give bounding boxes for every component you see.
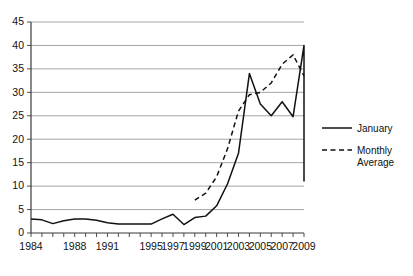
x-axis-tick-label: 2003 <box>227 240 251 252</box>
y-axis-tick-label: 20 <box>12 133 24 145</box>
y-axis-tick-label: 25 <box>12 109 24 121</box>
x-axis-tick-label: 2009 <box>292 240 316 252</box>
line-chart: 051015202530354045 198419881991199519971… <box>0 0 413 276</box>
y-axis-tick-label: 0 <box>18 226 24 238</box>
x-axis-tick-label: 1988 <box>63 240 87 252</box>
x-axis-tick-label: 1999 <box>183 240 207 252</box>
y-axis-tick-label: 45 <box>12 15 24 27</box>
y-axis-tick-label: 40 <box>12 39 24 51</box>
x-axis-tick-label: 1991 <box>96 240 120 252</box>
y-axis-tick-label: 15 <box>12 156 24 168</box>
chart-container: 051015202530354045 198419881991199519971… <box>0 0 413 276</box>
legend-label-january: January <box>357 123 393 134</box>
y-axis-tick-label: 10 <box>12 179 24 191</box>
chart-background <box>0 0 413 276</box>
legend-label-monthly-average-line1: Monthly <box>357 145 392 156</box>
legend-label-monthly-average-line2: Average <box>357 157 395 168</box>
y-axis-tick-label: 30 <box>12 86 24 98</box>
x-axis-tick-label: 1997 <box>161 240 185 252</box>
y-axis-tick-label: 35 <box>12 62 24 74</box>
x-axis-labels: 1984198819911995199719992001200320052007… <box>19 240 316 252</box>
x-axis-tick-label: 2001 <box>205 240 229 252</box>
y-axis-tick-label: 5 <box>18 203 24 215</box>
x-axis-tick-label: 1995 <box>139 240 163 252</box>
x-axis-tick-label: 2005 <box>249 240 273 252</box>
x-axis-tick-label: 2007 <box>270 240 294 252</box>
x-axis-tick-label: 1984 <box>19 240 43 252</box>
